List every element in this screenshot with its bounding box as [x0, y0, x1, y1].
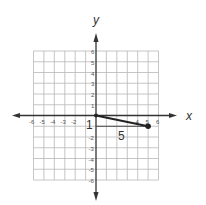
x-axis-left-arrow-icon — [12, 113, 20, 118]
y-tick: -6 — [89, 178, 95, 184]
x-axis-right-arrow-icon — [169, 113, 177, 118]
y-tick-labels: 6 5 4 3 2 1 -2 -3 -4 -5 -6 — [89, 49, 96, 184]
y-tick: -5 — [89, 167, 95, 173]
y-tick: 3 — [91, 81, 95, 87]
x-tick: -2 — [71, 119, 77, 125]
y-tick: -3 — [89, 146, 95, 152]
y-tick: 4 — [91, 71, 95, 77]
y-axis-up-arrow-icon — [94, 33, 99, 42]
x-tick: -6 — [29, 119, 35, 125]
y-tick: -2 — [89, 135, 95, 141]
y-tick: 5 — [91, 60, 95, 66]
line-segment — [96, 116, 148, 127]
y-tick: 6 — [91, 49, 95, 55]
y-tick: -4 — [89, 157, 95, 163]
coordinate-plane: y x -6 -5 -4 -3 -2 4 5 6 6 5 4 3 2 1 -2 … — [0, 0, 206, 205]
x-tick: 6 — [156, 119, 160, 125]
x-tick: -5 — [40, 119, 46, 125]
origin-point — [94, 114, 98, 118]
rise-label: 1 — [86, 118, 93, 132]
x-tick: -3 — [61, 119, 67, 125]
y-axis-down-arrow-icon — [94, 192, 99, 201]
y-tick: 2 — [91, 92, 95, 98]
y-tick: 1 — [91, 103, 95, 109]
x-tick: -4 — [50, 119, 56, 125]
y-axis-label: y — [92, 13, 100, 27]
run-label: 5 — [118, 129, 125, 143]
x-axis-label: x — [185, 109, 193, 123]
endpoint-dot — [145, 123, 151, 129]
